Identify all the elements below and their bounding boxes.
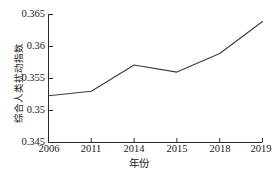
- x-tick-2019: 2019: [251, 144, 272, 155]
- x-tick-2006: 2006: [39, 144, 60, 155]
- data-series-line: [49, 22, 263, 96]
- y-axis-ticks: [49, 15, 54, 143]
- x-tick-2015: 2015: [167, 144, 188, 155]
- x-tick-2018: 2018: [210, 144, 231, 155]
- line-chart: 0.365 0.36 0.355 0.35 0.345 2006 2011 20…: [0, 0, 277, 179]
- x-tick-2011: 2011: [81, 144, 102, 155]
- y-axis-title: 综合人类扰动指数: [14, 28, 24, 138]
- x-axis-title: 年份: [0, 158, 277, 169]
- x-tick-2014: 2014: [124, 144, 145, 155]
- x-axis-ticks: [49, 138, 263, 143]
